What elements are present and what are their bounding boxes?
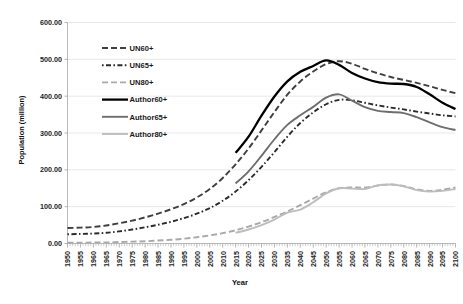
chart-container: 0.00100.00200.00300.00400.00500.00600.00… [0, 0, 463, 304]
x-tick-label: 2030 [270, 251, 279, 267]
y-tick-label: 400.00 [40, 92, 62, 101]
y-tick-label: 200.00 [40, 165, 62, 174]
y-tick-label: 100.00 [40, 202, 62, 211]
x-tick-label: 2045 [309, 251, 318, 267]
y-axis-title: Population (million) [17, 95, 26, 165]
x-tick-label: 2010 [219, 251, 228, 267]
x-tick-label: 2060 [348, 251, 357, 267]
x-axis-tick-labels: 1950195519601965197019751980198519901995… [63, 251, 460, 267]
legend-label-author65plus[interactable]: Author65+ [130, 113, 168, 122]
x-tick-label: 1990 [167, 251, 176, 267]
x-tick-label: 2005 [206, 251, 215, 267]
x-tick-label: 2075 [387, 251, 396, 267]
x-tick-label: 1985 [154, 251, 163, 267]
y-tick-label: 300.00 [40, 129, 62, 138]
x-tick-label: 1970 [115, 251, 124, 267]
legend-label-author60plus[interactable]: Author60+ [130, 95, 168, 104]
x-tick-label: 1980 [141, 251, 150, 267]
x-axis-title: Year [232, 278, 248, 287]
legend-label-author80plus[interactable]: Author80+ [130, 130, 168, 139]
x-tick-label: 1995 [180, 251, 189, 267]
x-tick-label: 2050 [322, 251, 331, 267]
x-tick-label: 2000 [193, 251, 202, 267]
x-tick-label: 2095 [438, 251, 447, 267]
x-tick-label: 2080 [400, 251, 409, 267]
x-tick-label: 2035 [283, 251, 292, 267]
x-tick-label: 2070 [374, 251, 383, 267]
x-tick-label: 2040 [296, 251, 305, 267]
x-tick-label: 2055 [335, 251, 344, 267]
x-tick-label: 2100 [451, 251, 460, 267]
x-tick-label: 2020 [244, 251, 253, 267]
x-tick-label: 2025 [257, 251, 266, 267]
legend-label-un60plus[interactable]: UN60+ [130, 44, 154, 53]
x-tick-label: 2065 [361, 251, 370, 267]
x-tick-label: 1950 [63, 251, 72, 267]
y-tick-label: 600.00 [40, 18, 62, 27]
y-tick-label: 0.00 [48, 239, 62, 248]
legend-label-un65plus[interactable]: UN65+ [130, 61, 154, 70]
x-tick-label: 2015 [232, 251, 241, 267]
legend-label-un80plus[interactable]: UN80+ [130, 78, 154, 87]
x-tick-label: 2085 [413, 251, 422, 267]
x-tick-label: 1975 [128, 251, 137, 267]
x-tick-label: 1965 [102, 251, 111, 267]
population-projection-line-chart: 0.00100.00200.00300.00400.00500.00600.00… [0, 0, 463, 304]
x-tick-label: 1960 [89, 251, 98, 267]
y-tick-label: 500.00 [40, 55, 62, 64]
x-tick-label: 2090 [426, 251, 435, 267]
x-tick-label: 1955 [76, 251, 85, 267]
